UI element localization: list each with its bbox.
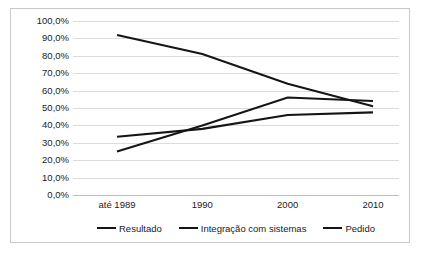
x-axis: até 1989199020002010 — [73, 199, 399, 213]
legend-label: Integração com sistemas — [201, 223, 307, 234]
series-line — [117, 35, 373, 106]
x-tick-label: até 1989 — [99, 199, 136, 211]
series-layer — [73, 21, 399, 195]
legend-line-swatch-icon — [323, 227, 342, 229]
y-tick-label: 80,0% — [11, 51, 69, 61]
y-tick-label: 0,0% — [11, 190, 69, 200]
legend-line-swatch-icon — [179, 227, 198, 229]
legend-line-swatch-icon — [97, 227, 116, 229]
plot-area — [73, 21, 399, 195]
y-axis: 0,0%10,0%20,0%30,0%40,0%50,0%60,0%70,0%8… — [11, 21, 69, 195]
x-tick-label: 2010 — [362, 199, 383, 211]
y-tick-label: 10,0% — [11, 173, 69, 183]
y-tick-label: 20,0% — [11, 155, 69, 165]
y-tick-label: 30,0% — [11, 138, 69, 148]
x-tick-label: 1990 — [192, 199, 213, 211]
legend-item[interactable]: Pedido — [323, 223, 375, 234]
legend-item[interactable]: Resultado — [97, 223, 162, 234]
series-line — [117, 112, 373, 136]
x-tick-label: 2000 — [277, 199, 298, 211]
legend-label: Resultado — [119, 223, 162, 234]
series-line — [117, 98, 373, 152]
legend-label: Pedido — [345, 223, 375, 234]
chart-figure-frame: 0,0%10,0%20,0%30,0%40,0%50,0%60,0%70,0%8… — [10, 8, 410, 243]
y-tick-label: 50,0% — [11, 103, 69, 113]
legend-item[interactable]: Integração com sistemas — [179, 223, 307, 234]
y-tick-label: 100,0% — [11, 16, 69, 26]
gridline — [73, 195, 399, 196]
chart-legend: ResultadoIntegração com sistemasPedido — [73, 220, 399, 236]
y-tick-label: 40,0% — [11, 120, 69, 130]
y-tick-label: 60,0% — [11, 86, 69, 96]
y-tick-label: 70,0% — [11, 68, 69, 78]
y-tick-label: 90,0% — [11, 33, 69, 43]
line-chart: 0,0%10,0%20,0%30,0%40,0%50,0%60,0%70,0%8… — [11, 9, 411, 244]
